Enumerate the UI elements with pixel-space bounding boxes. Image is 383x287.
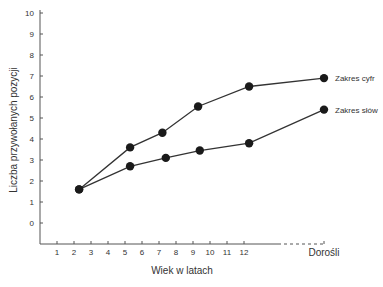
x-tick-label: 1 xyxy=(55,248,60,257)
series-digit-span: Zakres cyfr xyxy=(75,74,375,194)
y-tick-label: 7 xyxy=(30,72,35,81)
line-chart: 012345678910 123456789101112Dorośli Licz… xyxy=(0,0,383,287)
x-tick-label: 3 xyxy=(89,248,94,257)
y-tick-label: 0 xyxy=(30,219,35,228)
data-point-marker xyxy=(158,129,166,137)
y-axis-label: Liczba przywołanych pozycji xyxy=(8,67,19,193)
data-point-marker xyxy=(126,143,134,151)
series-label: Zakres słów xyxy=(335,106,378,115)
data-point-marker xyxy=(320,74,328,82)
data-point-marker xyxy=(162,154,170,162)
x-tick-label: 10 xyxy=(206,248,215,257)
data-point-marker xyxy=(320,105,328,113)
y-tick-label: 10 xyxy=(25,9,34,18)
x-tick-label: 6 xyxy=(140,248,145,257)
y-tick-label: 9 xyxy=(30,30,35,39)
y-axis: 012345678910 xyxy=(25,9,43,244)
x-tick-label: 4 xyxy=(106,248,111,257)
data-point-marker xyxy=(245,139,253,147)
data-point-marker xyxy=(245,82,253,90)
x-tick-label: 9 xyxy=(191,248,196,257)
series-label: Zakres cyfr xyxy=(335,74,375,83)
x-tick-label: 11 xyxy=(223,248,232,257)
x-axis: 123456789101112Dorośli xyxy=(40,241,340,258)
data-series: Zakres cyfrZakres słów xyxy=(75,74,378,194)
data-point-marker xyxy=(75,185,83,193)
data-point-marker xyxy=(126,162,134,170)
x-tick-label-adults: Dorośli xyxy=(308,247,339,258)
data-point-marker xyxy=(194,102,202,110)
x-tick-label: 2 xyxy=(72,248,77,257)
y-tick-label: 2 xyxy=(30,177,35,186)
y-tick-label: 1 xyxy=(30,198,35,207)
x-axis-label: Wiek w latach xyxy=(151,265,213,276)
x-tick-label: 12 xyxy=(240,248,249,257)
x-tick-label: 8 xyxy=(174,248,179,257)
y-tick-label: 4 xyxy=(30,135,35,144)
y-tick-label: 3 xyxy=(30,156,35,165)
data-point-marker xyxy=(196,146,204,154)
series-word-span: Zakres słów xyxy=(75,105,378,193)
y-tick-label: 8 xyxy=(30,51,35,60)
x-tick-label: 7 xyxy=(157,248,162,257)
x-tick-label: 5 xyxy=(123,248,128,257)
y-tick-label: 6 xyxy=(30,93,35,102)
y-tick-label: 5 xyxy=(30,114,35,123)
